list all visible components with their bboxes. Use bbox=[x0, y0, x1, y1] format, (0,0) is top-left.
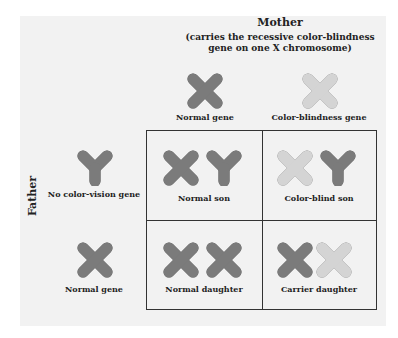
carrier-daughter-label: Carrier daughter bbox=[264, 284, 374, 294]
normal-daughter-x2-chromosome-icon bbox=[206, 242, 242, 278]
normal-son-x-chromosome-icon bbox=[163, 150, 199, 186]
mother-subtitle-2: gene on one X chromosome) bbox=[160, 43, 398, 54]
normal-son-y-chromosome-icon bbox=[206, 150, 242, 186]
mother-normal-x-chromosome-icon bbox=[187, 73, 223, 109]
normal-daughter-label: Normal daughter bbox=[150, 284, 258, 294]
mother-subtitle-1: (carries the recessive color-blindness bbox=[160, 32, 398, 43]
carrier-daughter-normal-x-chromosome-icon bbox=[277, 242, 313, 278]
grid-divider-horizontal bbox=[147, 220, 376, 221]
father-no-color-vision-gene-label: No color-vision gene bbox=[44, 189, 144, 199]
normal-daughter-x1-chromosome-icon bbox=[163, 242, 199, 278]
father-y-chromosome-icon bbox=[77, 150, 113, 186]
carrier-daughter-colorblind-x-chromosome-icon bbox=[316, 242, 352, 278]
colorblind-son-y-chromosome-icon bbox=[320, 150, 356, 186]
mother-colorblind-gene-label: Color-blindness gene bbox=[264, 112, 374, 122]
father-normal-x-chromosome-icon bbox=[77, 242, 113, 278]
colorblind-son-label: Color-blind son bbox=[264, 193, 374, 203]
father-normal-gene-label: Normal gene bbox=[44, 284, 144, 294]
mother-normal-gene-label: Normal gene bbox=[155, 112, 255, 122]
father-title: Father bbox=[26, 176, 39, 216]
colorblind-son-x-chromosome-icon bbox=[277, 150, 313, 186]
mother-colorblind-x-chromosome-icon bbox=[302, 73, 338, 109]
mother-title: Mother bbox=[180, 16, 380, 29]
normal-son-label: Normal son bbox=[150, 193, 258, 203]
